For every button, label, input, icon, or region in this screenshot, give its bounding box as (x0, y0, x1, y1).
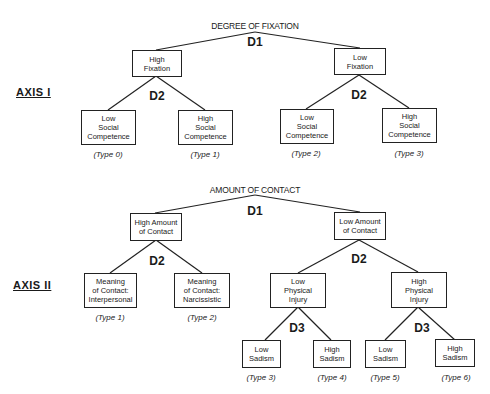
node-text: Low (286, 113, 329, 122)
node-text: Narcissistic (183, 295, 221, 304)
axis-1-label: AXIS I (16, 86, 51, 98)
node-type1-high-social-competence: HighSocialCompetence (178, 110, 233, 145)
axis-2-d3-right-label: D3 (414, 321, 429, 335)
node-type3-low-sadism: LowSadism (242, 340, 281, 368)
node-text: Competence (286, 131, 329, 140)
node-text: Meaning (89, 277, 133, 286)
axis-1-d2-right-label: D2 (351, 88, 366, 102)
node-high-physical-injury: HighPhysicalInjury (391, 272, 447, 308)
node-high-fixation: HighFixation (132, 50, 182, 77)
node-text: High (184, 114, 227, 123)
axis-2-type-2-label: (Type 2) (187, 313, 216, 322)
axis-2-d1-label: D1 (247, 204, 262, 218)
axis-2-type-3-label: (Type 3) (246, 373, 275, 382)
node-text: Fixation (347, 62, 373, 71)
node-text: Fixation (144, 64, 170, 73)
node-text: High (144, 55, 170, 64)
node-text: Physical (284, 286, 312, 295)
axis-2-title: AMOUNT OF CONTACT (210, 185, 300, 195)
node-text: High Amount (135, 218, 178, 227)
node-text: Low (347, 53, 373, 62)
node-text: Low (87, 114, 130, 123)
node-text: Sadism (319, 354, 344, 363)
axis-2-label: AXIS II (13, 279, 51, 291)
node-text: High (405, 277, 433, 286)
type-2-label: (Type 2) (291, 149, 320, 158)
node-low-physical-injury: LowPhysicalInjury (270, 273, 326, 308)
node-low-fixation: LowFixation (334, 48, 386, 75)
axis-2-type-6-label: (Type 6) (441, 373, 470, 382)
node-text: Interpersonal (89, 295, 133, 304)
node-text: Competence (87, 132, 130, 141)
type-1-label: (Type 1) (190, 150, 219, 159)
axis-2-d3-left-label: D3 (289, 321, 304, 335)
node-type6-high-sadism: HighSadism (435, 339, 475, 367)
node-type3-high-social-competence: HighSocialCompetence (382, 108, 437, 143)
axis-1-d1-label: D1 (247, 35, 262, 49)
node-text: Low Amount (339, 217, 380, 226)
node-type4-high-sadism: HighSadism (313, 340, 351, 368)
node-text: Sadism (249, 354, 274, 363)
axis-2-type-4-label: (Type 4) (317, 373, 346, 382)
node-meaning-narcissistic: Meaningof Contact:Narcissistic (174, 273, 230, 308)
node-low-amount-of-contact: Low Amountof Contact (334, 212, 386, 240)
node-text: Low (373, 345, 398, 354)
node-text: Meaning (183, 277, 221, 286)
axis-1-d2-left-label: D2 (149, 89, 164, 103)
node-type0-low-social-competence: LowSocialCompetence (81, 110, 136, 145)
node-text: High (388, 112, 431, 121)
type-3-label: (Type 3) (394, 149, 423, 158)
node-type2-low-social-competence: LowSocialCompetence (280, 109, 334, 144)
type-0-label: (Type 0) (93, 150, 122, 159)
node-text: Low (249, 345, 274, 354)
node-text: Injury (284, 295, 312, 304)
node-text: Social (184, 123, 227, 132)
node-type5-low-sadism: LowSadism (365, 340, 406, 368)
node-text: Social (388, 121, 431, 130)
node-text: of Contact: (89, 286, 133, 295)
axis-2-d2-left-label: D2 (149, 254, 164, 268)
node-text: High (319, 345, 344, 354)
axis-2-d2-right-label: D2 (351, 252, 366, 266)
node-text: Physical (405, 286, 433, 295)
axis-2-type-1-label: (Type 1) (95, 313, 124, 322)
node-text: Social (286, 122, 329, 131)
axis-1-title: DEGREE OF FIXATION (211, 21, 298, 31)
node-text: of Contact (135, 227, 178, 236)
axis-2-type-5-label: (Type 5) (370, 373, 399, 382)
node-text: Low (284, 277, 312, 286)
node-text: Competence (184, 132, 227, 141)
node-text: of Contact: (183, 286, 221, 295)
node-text: of Contact (339, 226, 380, 235)
node-text: Competence (388, 130, 431, 139)
node-high-amount-of-contact: High Amountof Contact (130, 213, 182, 241)
node-meaning-interpersonal: Meaningof Contact:Interpersonal (84, 273, 137, 308)
node-text: Sadism (373, 354, 398, 363)
node-text: Injury (405, 295, 433, 304)
node-text: Social (87, 123, 130, 132)
node-text: High (442, 344, 467, 353)
node-text: Sadism (442, 353, 467, 362)
